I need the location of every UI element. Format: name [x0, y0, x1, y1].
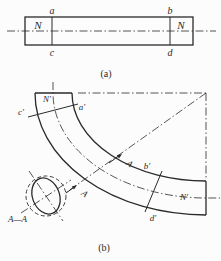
section-arrow-lower-shaft — [66, 188, 73, 193]
caption-a: (a) — [100, 68, 111, 80]
label-n-prime-top: N′ — [42, 94, 52, 104]
label-n-prime-bottom: N′ — [179, 192, 189, 202]
label-d-prime: d′ — [150, 213, 158, 223]
label-section-a-a: A—A — [7, 214, 28, 224]
label-n-left: N — [33, 19, 42, 31]
label-d: d — [168, 47, 174, 58]
label-arrow-a-lower: A — [79, 187, 91, 199]
technical-figure: a b c d N N (a) N′ c′ a′ b′ N′ d′ — [0, 0, 221, 261]
label-n-right: N — [176, 19, 185, 31]
label-c: c — [50, 47, 55, 58]
figure-b: N′ c′ a′ b′ N′ d′ A A A—A (b) — [7, 82, 220, 254]
label-b-prime: b′ — [144, 161, 152, 171]
section-arrow-upper-head-icon — [117, 154, 122, 158]
label-a: a — [50, 5, 55, 16]
label-c-prime: c′ — [18, 107, 25, 117]
section-arrow-lower: A — [66, 185, 90, 200]
caption-b: (b) — [98, 242, 110, 254]
label-b: b — [168, 5, 173, 16]
section-arrow-upper-shaft — [109, 157, 118, 164]
section-line-bd-prime — [145, 171, 162, 212]
label-a-prime: a′ — [79, 102, 87, 112]
figure-a: a b c d N N (a) — [7, 5, 216, 80]
cross-section-detail: A—A — [7, 171, 71, 224]
inner-arc — [72, 93, 206, 181]
diagram-svg: a b c d N N (a) N′ c′ a′ b′ N′ d′ — [0, 0, 221, 261]
